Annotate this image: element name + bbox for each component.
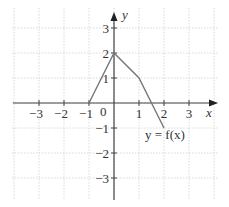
y-axis-label: y [120,7,128,22]
y-axis-arrow-icon [111,12,118,21]
x-tick-label: 3 [186,106,193,121]
y-tick-label: 2 [103,46,110,61]
y-tick-label: 3 [103,21,110,36]
grid [12,8,218,200]
y-tick-label: −2 [95,146,109,161]
x-tick-label: −3 [29,106,43,121]
x-tick-label: −2 [54,106,68,121]
y-tick-label: −1 [95,121,109,136]
y-tick-label: −3 [95,171,109,186]
x-tick-label: 2 [161,106,168,121]
curve-label: y = f(x) [145,127,185,142]
x-tick-label: 1 [136,106,143,121]
x-axis-label: x [205,105,212,120]
x-tick-label: −1 [79,106,93,121]
origin-label: 0 [100,104,107,119]
graph: −3−2−1123321−1−2−3 x y 0 y = f(x) [0,0,229,207]
